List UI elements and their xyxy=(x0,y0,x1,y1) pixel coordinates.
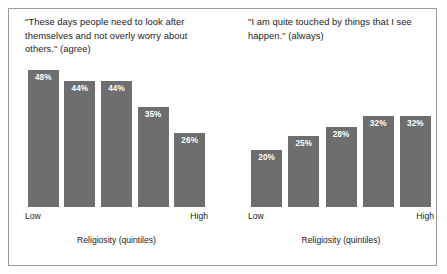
bar[interactable]: 44% xyxy=(101,81,132,207)
x-axis-ticks-left: Low High xyxy=(25,211,208,225)
bar-slot: 44% xyxy=(98,9,135,207)
bar-value-label: 44% xyxy=(101,84,132,93)
bar-group-left: 48% 44% 44% 35 xyxy=(25,9,208,207)
bar-value-label: 25% xyxy=(288,139,319,148)
bar[interactable]: 28% xyxy=(326,127,357,207)
bar-value-label: 28% xyxy=(326,130,357,139)
plot-area-left: 48% 44% 44% 35 xyxy=(9,9,224,207)
bar-slot: 48% xyxy=(25,9,62,207)
figure-frame: "These days people need to look after th… xyxy=(8,8,437,266)
bar-value-label: 35% xyxy=(138,110,169,119)
bar[interactable]: 32% xyxy=(400,116,431,207)
bar[interactable]: 44% xyxy=(64,81,95,207)
bar-value-label: 26% xyxy=(174,136,205,145)
x-tick-low: Low xyxy=(25,211,41,221)
x-axis-ticks-right: Low High xyxy=(248,211,434,225)
bar-value-label: 20% xyxy=(251,153,282,162)
bar[interactable]: 35% xyxy=(138,107,169,207)
bar-value-label: 32% xyxy=(400,119,431,128)
bar-value-label: 32% xyxy=(363,119,394,128)
bar-slot: 25% xyxy=(285,9,322,207)
bar-slot: 32% xyxy=(360,9,397,207)
bar[interactable]: 32% xyxy=(363,116,394,207)
bar[interactable]: 25% xyxy=(288,136,319,207)
plot-area-right: 20% 25% 28% 32 xyxy=(234,9,438,207)
bar-slot: 44% xyxy=(62,9,99,207)
x-axis-title-right: Religiosity (quintiles) xyxy=(248,235,434,245)
bar[interactable]: 48% xyxy=(28,70,59,207)
bar[interactable]: 26% xyxy=(174,133,205,207)
x-tick-high: High xyxy=(416,211,434,221)
x-axis-title-left: Religiosity (quintiles) xyxy=(25,235,208,245)
bar-slot: 35% xyxy=(135,9,172,207)
bar[interactable]: 20% xyxy=(251,150,282,207)
bar-slot: 32% xyxy=(397,9,434,207)
chart-panel-right: "I am quite touched by things that I see… xyxy=(234,9,438,267)
bar-value-label: 44% xyxy=(64,84,95,93)
chart-panel-left: "These days people need to look after th… xyxy=(9,9,224,267)
bar-slot: 26% xyxy=(171,9,208,207)
bar-slot: 28% xyxy=(322,9,359,207)
bar-value-label: 48% xyxy=(28,73,59,82)
figure-container: "These days people need to look after th… xyxy=(0,0,447,274)
x-tick-low: Low xyxy=(248,211,264,221)
bar-slot: 20% xyxy=(248,9,285,207)
x-tick-high: High xyxy=(190,211,208,221)
bar-group-right: 20% 25% 28% 32 xyxy=(248,9,434,207)
